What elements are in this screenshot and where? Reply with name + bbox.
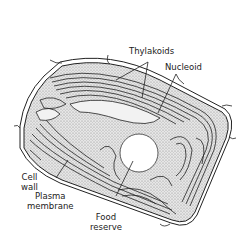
label-food-reserve-line1: Food bbox=[90, 212, 122, 222]
label-plasma-membrane-line1: Plasma bbox=[27, 191, 74, 201]
label-cell-wall-line1: Cell bbox=[21, 172, 38, 182]
label-thylakoids: Thylakoids bbox=[129, 46, 174, 56]
label-plasma-membrane: Plasma membrane bbox=[27, 191, 74, 211]
label-plasma-membrane-line2: membrane bbox=[27, 201, 74, 211]
food-reserve bbox=[120, 134, 158, 172]
label-nucleoid: Nucleoid bbox=[165, 62, 202, 72]
label-food-reserve-line2: reserve bbox=[90, 222, 122, 232]
label-cell-wall: Cell wall bbox=[21, 172, 38, 192]
label-food-reserve: Food reserve bbox=[90, 212, 122, 232]
